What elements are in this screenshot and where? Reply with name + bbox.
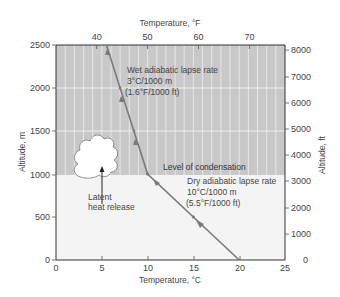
- x-tick: 5: [99, 263, 104, 273]
- x-tick: 20: [235, 263, 245, 273]
- svg-text:3°C/1000 m: 3°C/1000 m: [127, 76, 172, 86]
- y2-axis-title: Altitude, ft: [317, 135, 327, 173]
- x-axis-title: Temperature, °C: [139, 275, 201, 285]
- x-tick: 15: [189, 263, 199, 273]
- y2-tick: 3000: [291, 176, 311, 186]
- y2-tick: 4000: [291, 150, 311, 160]
- x-tick: 0: [53, 263, 58, 273]
- y2-tick: 5000: [291, 124, 311, 134]
- lapse-rate-chart: 0 5 10 15 20 25 40 50 60 70 0 500 1000 1…: [0, 0, 340, 297]
- x2-axis-title: Temperature, °F: [139, 18, 200, 28]
- y-tick: 2500: [30, 40, 50, 50]
- x2-tick: 40: [92, 32, 102, 42]
- svg-text:heat release: heat release: [88, 202, 135, 212]
- y-tick: 1000: [30, 170, 50, 180]
- y2-tick: 8000: [291, 45, 311, 55]
- y-tick: 2000: [30, 83, 50, 93]
- x-tick: 25: [280, 263, 290, 273]
- x-tick: 10: [143, 263, 153, 273]
- svg-text:Wet adiabatic lapse rate: Wet adiabatic lapse rate: [127, 65, 218, 75]
- x2-tick: 70: [244, 32, 254, 42]
- y2-tick: 6000: [291, 98, 311, 108]
- y-tick: 0: [45, 255, 50, 265]
- svg-text:(1.6°F/1000 ft): (1.6°F/1000 ft): [125, 87, 180, 97]
- y2-tick: 0: [303, 255, 308, 265]
- svg-text:Dry adiabatic lapse rate: Dry adiabatic lapse rate: [187, 176, 277, 186]
- x2-tick: 60: [193, 32, 203, 42]
- svg-text:10°C/1000 m: 10°C/1000 m: [187, 187, 237, 197]
- svg-text:Latent: Latent: [88, 192, 112, 202]
- y-tick: 500: [35, 212, 50, 222]
- condensation-label: Level of condensation: [163, 162, 246, 172]
- y2-tick: 7000: [291, 72, 311, 82]
- y-tick: 1500: [30, 126, 50, 136]
- x2-tick: 50: [143, 32, 153, 42]
- clear-air-region: [56, 175, 285, 260]
- y-axis-title: Altitude, m: [17, 132, 27, 172]
- y2-tick: 1000: [291, 229, 311, 239]
- y2-tick: 2000: [291, 203, 311, 213]
- svg-text:(5.5°F/1000 ft): (5.5°F/1000 ft): [186, 198, 241, 208]
